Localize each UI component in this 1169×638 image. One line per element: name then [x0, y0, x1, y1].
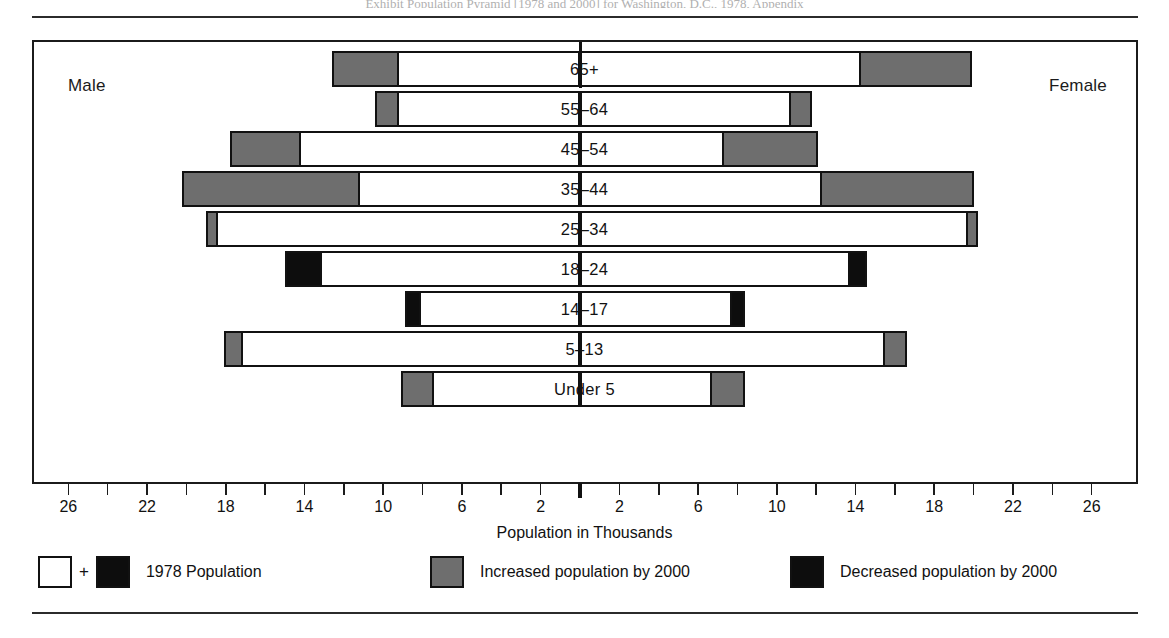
axis-tick [107, 484, 109, 495]
axis-tick [225, 484, 227, 495]
female-increase-segment [710, 371, 745, 407]
legend-item-decrease-2000: Decreased population by 2000 [790, 552, 1057, 592]
axis-tick-label: 2 [615, 498, 624, 516]
legend-swatch-black [790, 556, 824, 588]
axis-tick-label: 6 [694, 498, 703, 516]
legend-label: 1978 Population [146, 563, 262, 581]
pyramid-row: 18–24 [0, 249, 1169, 289]
axis-tick-label: 22 [1004, 498, 1022, 516]
female-increase-segment [859, 51, 971, 87]
pyramid-row: 35–44 [0, 169, 1169, 209]
pyramid-row: 55–64 [0, 89, 1169, 129]
pyramid-row: 14–17 [0, 289, 1169, 329]
legend-swatch-black [96, 556, 130, 588]
axis-tick [540, 484, 542, 495]
axis-tick [855, 484, 857, 495]
female-bar-14-17 [580, 291, 745, 327]
axis-tick-label: 6 [457, 498, 466, 516]
axis-tick [186, 484, 188, 495]
male-bar-55-64 [375, 91, 580, 127]
x-axis: 262218141062261014182226 [0, 484, 1169, 528]
male-decrease-segment [405, 291, 421, 327]
male-bar-14-17 [405, 291, 580, 327]
female-increase-segment [722, 131, 818, 167]
x-axis-title: Population in Thousands [0, 524, 1169, 542]
axis-tick [500, 484, 502, 495]
axis-tick [933, 484, 935, 495]
axis-tick [973, 484, 975, 495]
male-bar-25-34 [206, 211, 580, 247]
axis-tick-label: 14 [296, 498, 314, 516]
axis-tick [264, 484, 266, 495]
pyramid-row: Under 5 [0, 369, 1169, 409]
axis-tick-label: 18 [925, 498, 943, 516]
axis-tick-zero [578, 483, 581, 498]
male-increase-segment [224, 331, 244, 367]
pyramid-row: 65+ [0, 49, 1169, 89]
female-bar-25-34 [580, 211, 978, 247]
female-bar-18-24 [580, 251, 867, 287]
axis-tick [697, 484, 699, 495]
legend-label: Increased population by 2000 [480, 563, 690, 581]
bottom-rule [32, 612, 1138, 614]
female-increase-segment [883, 331, 907, 367]
axis-tick-label: 10 [768, 498, 786, 516]
axis-tick [737, 484, 739, 495]
axis-tick [304, 484, 306, 495]
axis-tick [658, 484, 660, 495]
female-bar-55-64 [580, 91, 812, 127]
female-increase-segment [820, 171, 974, 207]
male-increase-segment [206, 211, 218, 247]
bars-plot-area: 65+55–6445–5435–4425–3418–2414–175–13Und… [0, 48, 1169, 484]
male-bar-5-13 [224, 331, 580, 367]
pyramid-row: 25–34 [0, 209, 1169, 249]
female-increase-segment [789, 91, 813, 127]
axis-tick [68, 484, 70, 495]
axis-tick [1091, 484, 1093, 495]
chart-legend: +1978 PopulationIncreased population by … [0, 552, 1169, 600]
axis-tick [422, 484, 424, 495]
axis-tick-label: 14 [847, 498, 865, 516]
axis-tick-label: 26 [1083, 498, 1101, 516]
axis-tick-label: 22 [138, 498, 156, 516]
female-decrease-segment [848, 251, 868, 287]
legend-swatch-white [38, 556, 72, 588]
pyramid-row: 5–13 [0, 329, 1169, 369]
male-decrease-segment [285, 251, 322, 287]
axis-tick [461, 484, 463, 495]
legend-item-population-1978: +1978 Population [38, 552, 262, 592]
male-increase-segment [332, 51, 399, 87]
female-bar-5-13 [580, 331, 907, 367]
axis-tick [815, 484, 817, 495]
male-increase-segment [375, 91, 399, 127]
male-increase-segment [230, 131, 301, 167]
female-decrease-segment [730, 291, 746, 327]
axis-tick [1012, 484, 1014, 495]
axis-tick [382, 484, 384, 495]
male-bar-18-24 [285, 251, 580, 287]
axis-tick [619, 484, 621, 495]
legend-item-increase-2000: Increased population by 2000 [430, 552, 690, 592]
axis-tick-label: 26 [59, 498, 77, 516]
top-rule [32, 16, 1138, 18]
axis-tick-label: 18 [217, 498, 235, 516]
axis-tick [894, 484, 896, 495]
axis-tick [146, 484, 148, 495]
male-increase-segment [182, 171, 359, 207]
female-increase-segment [966, 211, 978, 247]
legend-plus-sign: + [79, 562, 89, 582]
axis-tick-label: 10 [374, 498, 392, 516]
axis-tick-label: 2 [536, 498, 545, 516]
legend-swatch-gray [430, 556, 464, 588]
cut-off-caption: Exhibit Population Pyramid [1978 and 200… [0, 0, 1169, 8]
axis-tick [776, 484, 778, 495]
axis-tick [1052, 484, 1054, 495]
axis-tick [343, 484, 345, 495]
pyramid-row: 45–54 [0, 129, 1169, 169]
population-pyramid-page: Exhibit Population Pyramid [1978 and 200… [0, 0, 1169, 638]
legend-label: Decreased population by 2000 [840, 563, 1057, 581]
male-increase-segment [401, 371, 434, 407]
